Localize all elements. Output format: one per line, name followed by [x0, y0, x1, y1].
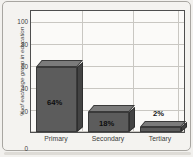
y-tick-label-40: 40	[6, 85, 28, 92]
bar-label-primary: 64%	[47, 98, 62, 107]
x-label-tertiary: Tertiary	[134, 135, 186, 142]
bar-secondary-side-face	[129, 107, 135, 132]
y-axis-tick-labels: 0 20 40 60 80 100	[4, 10, 28, 133]
y-tick-label-0: 0	[6, 144, 28, 151]
y-tick-label-60: 60	[6, 62, 28, 69]
bar-secondary-top-face	[88, 105, 135, 112]
y-tick-label-20: 20	[6, 107, 28, 114]
bar-label-secondary: 18%	[99, 119, 114, 128]
bar-primary[interactable]: 64%	[36, 60, 77, 132]
y-tick-label-100: 100	[6, 18, 28, 25]
x-label-secondary: Secondary	[82, 135, 134, 142]
chart-screenshot: % of each age group in education 0 20 40…	[0, 0, 193, 157]
y-tick-label-80: 80	[6, 40, 28, 47]
bars-layer: 64% 18% 2%	[30, 10, 185, 133]
bar-label-tertiary: 2%	[153, 109, 164, 118]
x-axis-category-labels: Primary Secondary Tertiary	[30, 135, 185, 147]
bar-primary-side-face	[77, 62, 83, 132]
bar-secondary[interactable]: 18%	[88, 105, 129, 132]
bar-tertiary-front-face	[140, 127, 181, 132]
x-label-primary: Primary	[30, 135, 82, 142]
bar-primary-top-face	[36, 60, 83, 67]
bar-tertiary[interactable]: 2%	[140, 121, 181, 132]
image-frame-shadow	[4, 152, 191, 155]
